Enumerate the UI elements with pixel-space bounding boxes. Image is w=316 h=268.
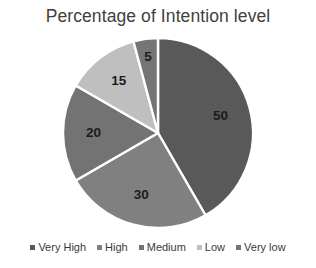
legend-item-label: Very High bbox=[38, 242, 86, 253]
pie-data-label: 30 bbox=[134, 187, 149, 202]
legend-item[interactable]: Medium bbox=[139, 242, 186, 253]
chart-legend: Very High High Medium Low Very low bbox=[0, 236, 316, 258]
legend-swatch-icon bbox=[97, 245, 102, 250]
legend-item[interactable]: Very High bbox=[30, 242, 86, 253]
pie-data-label: 15 bbox=[111, 73, 127, 88]
legend-item[interactable]: High bbox=[97, 242, 128, 253]
legend-item-label: Very low bbox=[244, 242, 286, 253]
legend-swatch-icon bbox=[30, 245, 35, 250]
legend-item[interactable]: Very low bbox=[236, 242, 286, 253]
pie-data-label: 50 bbox=[213, 108, 228, 123]
legend-item[interactable]: Low bbox=[197, 242, 225, 253]
pie-data-label: 5 bbox=[144, 49, 152, 64]
legend-swatch-icon bbox=[236, 245, 241, 250]
pie-plot-area: 503020155 bbox=[0, 0, 316, 238]
legend-swatch-icon bbox=[197, 245, 202, 250]
legend-item-label: Low bbox=[205, 242, 225, 253]
legend-item-label: High bbox=[105, 242, 128, 253]
legend-swatch-icon bbox=[139, 245, 144, 250]
pie-chart-figure: Percentage of Intention level 503020155 … bbox=[0, 0, 316, 268]
legend-item-label: Medium bbox=[147, 242, 186, 253]
pie-data-label: 20 bbox=[86, 125, 101, 140]
pie-svg: 503020155 bbox=[0, 0, 316, 238]
